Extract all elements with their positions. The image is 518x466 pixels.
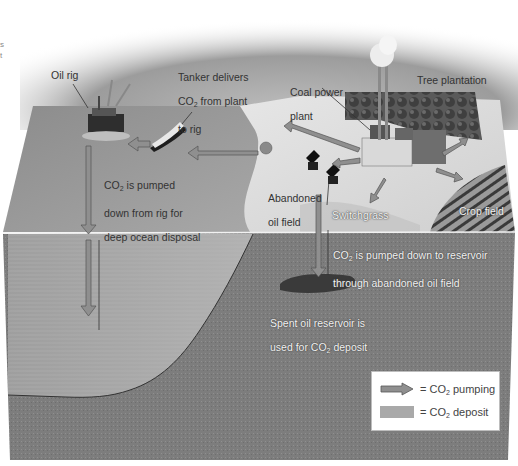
- arrow-icon: [380, 382, 414, 396]
- reservoir-pump-label: CO2 is pumped down to reservoir through …: [333, 237, 487, 301]
- reservoir-pump-line2: through abandoned oil field: [333, 277, 487, 289]
- abandoned-field-line2: oil field: [268, 216, 322, 228]
- abandoned-oil-field-label: Abandoned oil field: [268, 180, 322, 240]
- tanker-label-line2: CO2 from plant: [178, 95, 249, 111]
- switchgrass-label: Switchgrass: [332, 209, 389, 221]
- abandoned-field-line1: Abandoned: [268, 192, 322, 204]
- coal-plant-label: Coal power plant: [290, 74, 343, 134]
- reservoir-pump-line1: CO2 is pumped down to reservoir: [333, 249, 487, 265]
- legend-deposit-label: = CO2 deposit: [420, 406, 488, 419]
- coal-plant-label-line2: plant: [290, 110, 343, 122]
- coal-plant-label-line1: Coal power: [290, 86, 343, 98]
- edge-fragment-text-2: t: [0, 51, 2, 60]
- ocean-disposal-line1: CO2 is pumped: [104, 179, 200, 195]
- legend-item-deposit: = CO2 deposit: [380, 404, 488, 420]
- legend-pumping-label: = CO2 pumping: [420, 383, 495, 396]
- crop-field-label: Crop field: [459, 205, 504, 217]
- ocean-disposal-label: CO2 is pumped down from rig for deep oce…: [104, 167, 200, 255]
- ocean-disposal-line2: down from rig for: [104, 207, 200, 219]
- oil-rig-label: Oil rig: [51, 69, 78, 81]
- edge-fragment-text-1: s: [0, 40, 4, 49]
- spent-reservoir-line1: Spent oil reservoir is: [270, 317, 367, 329]
- tanker-label-line1: Tanker delivers: [178, 71, 249, 83]
- tanker-label: Tanker delivers CO2 from plant to rig: [178, 59, 249, 147]
- deposit-swatch-icon: [380, 406, 414, 418]
- tanker-label-line3: to rig: [178, 123, 249, 135]
- legend-item-pumping: = CO2 pumping: [380, 381, 495, 397]
- tree-plantation-label: Tree plantation: [417, 74, 487, 86]
- ocean-disposal-line3: deep ocean disposal: [104, 231, 200, 243]
- legend: = CO2 pumping = CO2 deposit: [371, 371, 500, 431]
- spent-reservoir-label: Spent oil reservoir is used for CO2 depo…: [270, 305, 367, 369]
- spent-reservoir-line2: used for CO2 deposit: [270, 341, 367, 357]
